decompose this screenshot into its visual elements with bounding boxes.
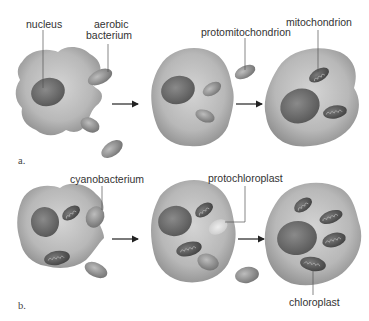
cyanobacterium-engulfed	[82, 259, 110, 282]
free-bacterium	[98, 136, 126, 161]
label-protochloroplast: protochloroplast	[208, 173, 283, 184]
label-protomitochondrion: protomitochondrion	[201, 27, 291, 38]
panel-label-a: a.	[18, 155, 25, 166]
label-mitochondrion: mitochondrion	[286, 17, 352, 28]
host-cell-a3	[265, 48, 359, 146]
label-chloroplast: chloroplast	[289, 297, 340, 308]
host-cell-a2	[151, 48, 233, 146]
panel-b	[17, 180, 361, 295]
label-aerobic-line2: bacterium	[86, 30, 132, 41]
host-cell-a1	[16, 47, 115, 136]
host-cell-b2	[151, 180, 236, 282]
label-cyanobacterium: cyanobacterium	[70, 174, 144, 185]
diagram-canvas	[0, 0, 369, 321]
label-nucleus: nucleus	[26, 19, 62, 30]
endosymbiosis-diagram: nucleus aerobic bacterium protomitochond…	[0, 0, 369, 321]
host-cell-b1	[17, 184, 110, 282]
protochloroplast-free	[234, 265, 260, 285]
panel-label-b: b.	[18, 300, 26, 311]
panel-a	[16, 30, 359, 162]
